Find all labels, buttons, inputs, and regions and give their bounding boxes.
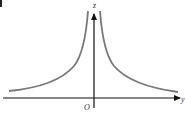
curve-right-branch — [100, 11, 178, 92]
z-axis-label: z — [92, 1, 97, 10]
origin-label: O — [84, 103, 90, 112]
function-graph: z y O — [0, 0, 185, 117]
y-axis-label: y — [180, 95, 185, 104]
curve-left-branch — [9, 11, 88, 91]
